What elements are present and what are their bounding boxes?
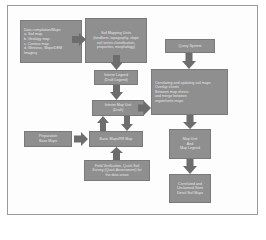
- node-query-system: Query System: [165, 39, 215, 53]
- node-text-line: properties, morphology): [97, 45, 135, 50]
- node-preparation-base-maps: PreparationBase Maps: [24, 131, 72, 147]
- arrow-down-icon: [183, 115, 197, 129]
- arrow-up-icon: [97, 116, 109, 131]
- arrow-down-icon: [110, 55, 123, 70]
- node-interim-legend: Interim Legend(Draft Legend): [94, 70, 138, 85]
- arrow-up-icon: [110, 147, 123, 160]
- node-correlating: Correlating and updating soil mapsOverla…: [151, 69, 228, 115]
- node-text-line: (Draft): [113, 108, 123, 113]
- arrow-right-icon: [74, 132, 88, 146]
- node-text-line: (Draft Legend): [104, 78, 127, 83]
- node-text-line: Query System: [179, 44, 202, 49]
- node-text-line: the data areas: [106, 173, 129, 178]
- arrow-down-icon: [121, 116, 133, 131]
- node-text-line: Base Maps: [39, 139, 57, 144]
- node-map-unit-legend: Map UnitAndMap Legend: [169, 129, 211, 159]
- arrow-down-icon: [183, 159, 197, 174]
- node-base-maps: Basic Maps/RR Map: [89, 131, 143, 147]
- node-text-line: Map Legend: [180, 146, 200, 151]
- arrow-right-icon: [138, 101, 151, 115]
- arrow-down-icon: [110, 85, 123, 100]
- arrow-right-icon: [72, 33, 86, 46]
- arrow-down-icon: [182, 53, 196, 69]
- node-text-line: region/units maps: [155, 99, 183, 104]
- node-correlated-maps: Correlated andUnclaimed SemiDetail Soil …: [169, 174, 211, 203]
- node-interim-map-unit: Interim Map Unit(Draft): [92, 100, 144, 116]
- node-text-line: Basic Maps/RR Map: [100, 137, 133, 142]
- node-text-line: Detail Soil Maps: [177, 191, 203, 196]
- node-field-verification: Field Verification, Quick SoilSurvey (Qu…: [84, 160, 150, 181]
- node-text-line: Imagery: [24, 51, 37, 56]
